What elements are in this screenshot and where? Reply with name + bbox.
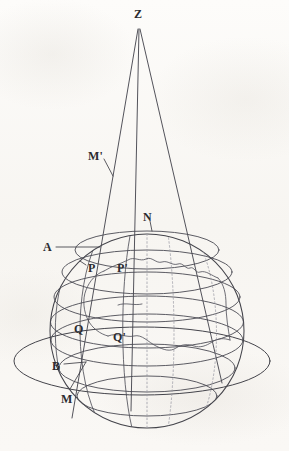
leader-line-P — [80, 261, 86, 265]
label-N: N — [143, 211, 152, 223]
projection-diagram-svg — [0, 0, 289, 451]
label-Q: Q — [74, 323, 84, 335]
label-Z: Z — [134, 8, 142, 20]
label-P-prime: P' — [117, 262, 128, 274]
label-P: P — [88, 262, 96, 274]
leader-line-Mprime — [104, 159, 113, 176]
label-A: A — [43, 241, 52, 253]
label-Q-prime: Q' — [113, 331, 126, 343]
leader-line-B — [64, 362, 86, 364]
ray-right — [140, 29, 222, 383]
coastline-inner-detail — [118, 304, 142, 305]
label-M: M — [61, 393, 73, 405]
ray-middle — [131, 29, 139, 411]
label-M-prime: M' — [88, 150, 103, 162]
label-leader-lines — [56, 159, 152, 389]
meridian-far-2 — [200, 244, 217, 424]
label-B: B — [52, 360, 60, 372]
ray-left-to-M — [72, 29, 138, 418]
projection-figure: Z M' N A P P' Q Q' B M — [0, 0, 289, 451]
